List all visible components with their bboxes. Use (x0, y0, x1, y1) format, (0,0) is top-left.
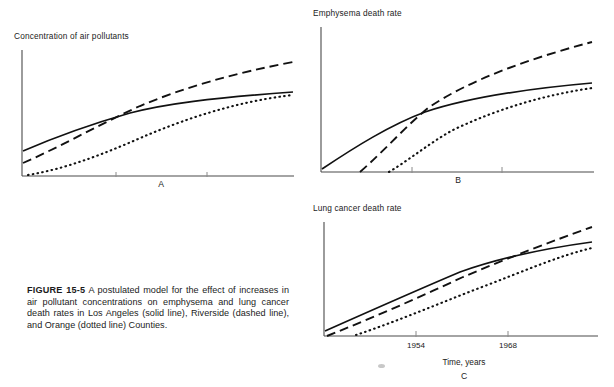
panel-c-letter: C (449, 371, 479, 381)
panel-c-series (325, 227, 592, 336)
panel-c-xticklabel-1968: 1968 (488, 341, 528, 350)
panel-c-x-axis-label: Time, years (419, 357, 509, 367)
panel-c-line-riverside (327, 227, 592, 336)
figure-15-5: Concentration of air pollutants A Emphys… (0, 0, 614, 387)
panel-c-xticklabel-1954: 1954 (396, 341, 436, 350)
figure-caption: FIGURE 15-5 A postulated model for the e… (27, 285, 289, 331)
panel-c-axes (324, 222, 598, 337)
scan-speck (378, 364, 385, 368)
figure-number: FIGURE 15-5 (27, 285, 85, 295)
panel-c-line-orange (356, 248, 592, 335)
panel-c-line-los-angeles (325, 242, 592, 331)
